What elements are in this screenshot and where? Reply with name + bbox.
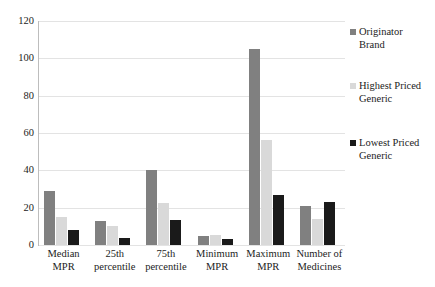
- bar: [107, 226, 118, 245]
- bar: [158, 203, 169, 245]
- y-tick-label: 60: [4, 128, 34, 139]
- bar: [249, 49, 260, 245]
- legend-label: Highest PricedGeneric: [359, 80, 421, 105]
- legend-entry[interactable]: Highest PricedGeneric: [350, 80, 421, 105]
- legend-swatch-icon: [350, 140, 356, 146]
- bar-group: [243, 21, 294, 245]
- y-tick-label: 0: [4, 240, 34, 251]
- bar: [44, 191, 55, 245]
- legend-entry[interactable]: OriginatorBrand: [350, 26, 403, 51]
- y-tick-label: 40: [4, 165, 34, 176]
- bar: [95, 221, 106, 245]
- legend-label-line: Lowest Priced: [359, 137, 419, 150]
- bar: [170, 220, 181, 245]
- bar-group: [192, 21, 243, 245]
- legend-label-line: Generic: [359, 93, 421, 106]
- bar: [300, 206, 311, 245]
- bar-group: [38, 21, 89, 245]
- x-axis-category-labels: MedianMPR25thpercentile75thpercentileMin…: [38, 248, 345, 284]
- legend-label: Lowest PricedGeneric: [359, 137, 419, 162]
- y-axis-tick-labels: 020406080100120: [0, 0, 34, 287]
- bar: [68, 230, 79, 245]
- bar: [324, 202, 335, 245]
- y-tick-label: 100: [4, 53, 34, 64]
- bar-group: [89, 21, 140, 245]
- gridline-0: [38, 245, 345, 246]
- y-tick-label: 80: [4, 90, 34, 101]
- x-tick-label-line: Medicines: [289, 261, 350, 274]
- bars-layer: [38, 21, 345, 245]
- bar-group: [294, 21, 345, 245]
- bar: [56, 217, 67, 245]
- legend-swatch-icon: [350, 83, 356, 89]
- legend-swatch-icon: [350, 29, 356, 35]
- legend-label: OriginatorBrand: [359, 26, 403, 51]
- bar: [261, 140, 272, 245]
- legend-label-line: Brand: [359, 39, 403, 52]
- legend-entry[interactable]: Lowest PricedGeneric: [350, 137, 419, 162]
- bar-chart-figure: 020406080100120 MedianMPR25thpercentile7…: [0, 0, 435, 287]
- bar: [146, 170, 157, 245]
- bar: [119, 238, 130, 245]
- y-tick-label: 20: [4, 202, 34, 213]
- bar: [312, 219, 323, 245]
- legend-label-line: Originator: [359, 26, 403, 39]
- x-tick-label-line: Number of: [289, 248, 350, 261]
- legend-label-line: Generic: [359, 150, 419, 163]
- y-tick-label: 120: [4, 16, 34, 27]
- bar-group: [140, 21, 191, 245]
- bar: [198, 236, 209, 245]
- bar: [222, 239, 233, 245]
- x-tick-label: Number ofMedicines: [289, 248, 350, 273]
- bar: [273, 195, 284, 245]
- legend-label-line: Highest Priced: [359, 80, 421, 93]
- bar: [210, 235, 221, 245]
